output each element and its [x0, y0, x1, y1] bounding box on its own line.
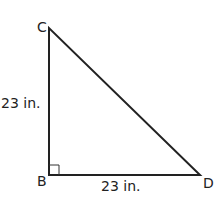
right-angle-marker	[49, 165, 59, 175]
triangle-cbd	[49, 28, 200, 175]
vertex-label-c: C	[37, 20, 47, 34]
vertex-label-d: D	[203, 176, 214, 190]
side-label-bd: 23 in.	[101, 179, 140, 193]
side-label-cb: 23 in.	[1, 96, 40, 110]
vertex-label-b: B	[37, 174, 47, 188]
